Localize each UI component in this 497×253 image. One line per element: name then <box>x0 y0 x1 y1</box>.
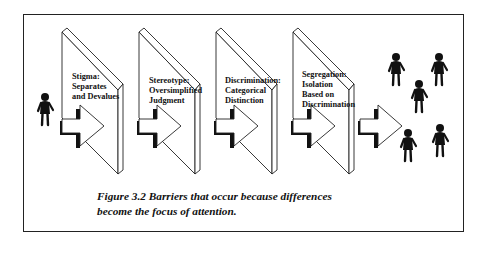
person-icon <box>38 93 53 125</box>
stage-label-discrimination: Discrimination: Categorical Distinction <box>225 76 281 106</box>
group-of-people-icon <box>389 53 448 161</box>
figure-caption: Figure 3.2 Barriers that occur because d… <box>97 189 332 219</box>
stage-label-stigma: Stigma: Separates and Devalues <box>72 72 119 102</box>
arrow-icon <box>358 105 402 148</box>
stage-label-segregation: Segregation: Isolation Based on Discrimi… <box>302 70 355 110</box>
stage-label-stereotype: Stereotype: Oversimplified Judgment <box>149 76 202 106</box>
